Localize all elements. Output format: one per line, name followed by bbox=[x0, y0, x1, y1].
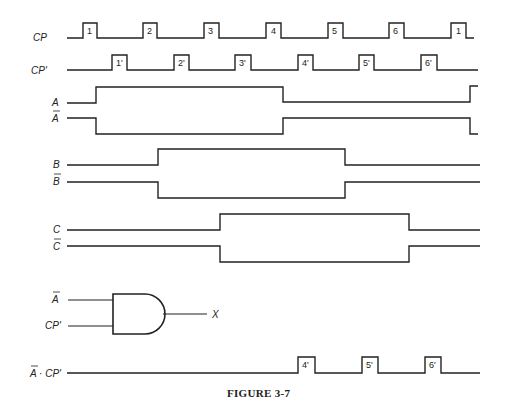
waveform-abar bbox=[67, 118, 478, 134]
pulse-label: 1' bbox=[116, 58, 123, 68]
label-c-bar: C bbox=[53, 239, 61, 252]
pulse-label: 1 bbox=[456, 26, 461, 36]
waveform-cbar bbox=[67, 246, 480, 262]
label-b-bar: B bbox=[53, 174, 61, 187]
and-gate: A CP' X bbox=[45, 292, 219, 334]
waveform-bbar bbox=[67, 182, 480, 198]
gate-output-label: X bbox=[211, 309, 219, 320]
pulse-label: 5' bbox=[366, 360, 373, 370]
label-b: B bbox=[53, 159, 60, 170]
label-c: C bbox=[53, 224, 61, 235]
timing-diagram: CP CP' A A B B C C A · CP' 12345611'2'3'… bbox=[0, 0, 507, 417]
svg-text:A · CP': A · CP' bbox=[29, 368, 62, 379]
pulse-label: 5 bbox=[332, 26, 337, 36]
pulse-label: 6' bbox=[425, 58, 432, 68]
pulse-label: 4 bbox=[271, 26, 276, 36]
waveform-c bbox=[67, 214, 480, 230]
svg-text:B: B bbox=[53, 176, 60, 187]
pulse-label: 5' bbox=[363, 58, 370, 68]
pulse-label: 1 bbox=[87, 26, 92, 36]
label-cp: CP bbox=[33, 32, 47, 43]
gate-input-a-bar-label: A bbox=[51, 292, 60, 305]
label-a-bar: A bbox=[51, 111, 60, 124]
svg-text:A: A bbox=[51, 113, 59, 124]
pulse-label: 3 bbox=[208, 26, 213, 36]
label-a: A bbox=[51, 97, 59, 108]
svg-text:C: C bbox=[53, 241, 61, 252]
waveform-cpprime bbox=[67, 55, 478, 70]
pulse-label: 3' bbox=[239, 58, 246, 68]
label-a-bar-and-cp-prime: A · CP' bbox=[29, 366, 62, 379]
and-gate-body bbox=[113, 294, 165, 334]
pulse-label: 6' bbox=[429, 360, 436, 370]
pulse-label: 2' bbox=[178, 58, 185, 68]
waveform-b bbox=[67, 149, 480, 165]
pulse-label: 4' bbox=[302, 360, 309, 370]
pulse-label: 4' bbox=[302, 58, 309, 68]
waveform-a bbox=[67, 86, 478, 103]
label-cp-prime: CP' bbox=[31, 65, 48, 76]
pulse-label: 6 bbox=[393, 26, 398, 36]
figure-caption: FIGURE 3-7 bbox=[227, 387, 290, 399]
pulse-label: 2 bbox=[147, 26, 152, 36]
svg-text:A: A bbox=[51, 294, 59, 305]
gate-input-cp-prime-label: CP' bbox=[45, 320, 62, 331]
waveform-abarcpprime bbox=[67, 357, 480, 373]
